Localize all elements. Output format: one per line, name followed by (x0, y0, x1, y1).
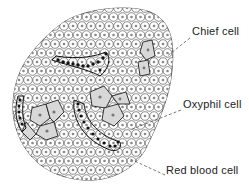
label-oxyphil-cell: Oxyphil cell (183, 98, 242, 110)
label-chief-cell: Chief cell (192, 25, 239, 37)
parathyroid-histology-diagram: Chief cell Oxyphil cell Red blood cell (0, 0, 249, 187)
label-red-blood-cell: Red blood cell (166, 164, 239, 176)
